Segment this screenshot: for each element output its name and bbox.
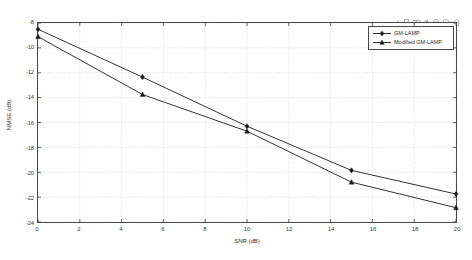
marker-diamond	[140, 75, 144, 80]
x-tick-label: 8	[203, 226, 206, 232]
x-tick-label: 16	[370, 226, 377, 232]
y-tick-label: -14	[26, 94, 34, 100]
marker-diamond	[349, 168, 353, 173]
x-tick-label: 0	[35, 226, 38, 232]
restore-view-icon[interactable]	[452, 13, 461, 22]
x-tick-label: 10	[244, 226, 251, 232]
legend-marker-diamond	[372, 29, 392, 38]
figure-toolbar	[392, 13, 461, 22]
marker-triangle	[36, 34, 41, 39]
y-tick-label: -10	[26, 44, 34, 50]
x-tick-label: 12	[286, 226, 293, 232]
y-tick-label: -24	[26, 220, 34, 226]
data-series-layer	[38, 23, 456, 222]
y-tick-label: -8	[29, 19, 34, 25]
x-tick-label: 6	[161, 226, 164, 232]
zoom-in-icon[interactable]	[432, 13, 441, 22]
plot-area	[37, 22, 457, 223]
marker-diamond	[36, 27, 40, 32]
series-line	[38, 29, 456, 194]
marker-diamond	[245, 124, 249, 129]
x-axis-title: SNR (dB)	[37, 238, 457, 244]
x-tick-label: 14	[328, 226, 335, 232]
pan-icon[interactable]	[422, 13, 431, 22]
legend-entry-1: GM-LAMP	[372, 29, 450, 38]
matlab-figure-window: NMSE (dB) -8-10-12-14-16-18-20-22-24 024…	[0, 0, 472, 260]
legend-label: Modified GM-LAMP	[394, 38, 442, 47]
marker-triangle	[140, 92, 145, 97]
brush-data-icon[interactable]	[392, 13, 401, 22]
link-plot-icon[interactable]	[412, 13, 421, 22]
zoom-out-icon[interactable]	[442, 13, 451, 22]
data-cursor-icon[interactable]	[402, 13, 411, 22]
marker-diamond	[454, 191, 458, 196]
y-tick-label: -18	[26, 145, 34, 151]
x-tick-label: 2	[77, 226, 80, 232]
x-tick-label: 18	[412, 226, 419, 232]
series-1	[36, 27, 458, 197]
y-tick-label-group: -8-10-12-14-16-18-20-22-24	[8, 22, 34, 223]
series-line	[38, 37, 456, 208]
y-tick-label: -20	[26, 170, 34, 176]
chart-legend[interactable]: GM-LAMPModified GM-LAMP	[368, 26, 454, 50]
y-tick-label: -16	[26, 120, 34, 126]
x-tick-label-group: 02468101214161820	[37, 226, 457, 236]
y-tick-label: -22	[26, 195, 34, 201]
marker-diamond	[380, 31, 384, 36]
x-tick-label: 4	[119, 226, 122, 232]
x-tick-label: 20	[454, 226, 461, 232]
y-tick-label: -12	[26, 69, 34, 75]
legend-label: GM-LAMP	[394, 29, 420, 38]
legend-marker-triangle	[372, 38, 392, 47]
series-2	[36, 34, 459, 210]
legend-entry-2: Modified GM-LAMP	[372, 38, 450, 47]
